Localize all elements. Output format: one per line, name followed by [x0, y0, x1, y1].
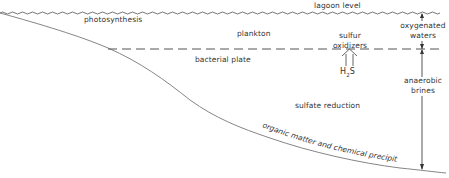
lagoon-level-label: lagoon level [314, 2, 361, 10]
lagoon-floor-profile [0, 13, 446, 173]
sulfate-reduction-label: sulfate reduction [295, 102, 360, 110]
sulfur-oxidizers-label: sulfur oxidizers [330, 32, 370, 49]
oxygenated-waters-line2: waters [398, 32, 448, 40]
oxygenated-waters-line1: oxygenated [398, 22, 448, 30]
plankton-label: plankton [237, 30, 271, 38]
oxygenated-waters-label: oxygenated waters [398, 22, 448, 39]
anaerobic-brines-label: anaerobic brines [398, 77, 448, 94]
photosynthesis-label: photosynthesis [84, 16, 142, 24]
anaerobic-brines-line1: anaerobic [398, 77, 448, 85]
h2s-upward-arrow-icon [342, 49, 357, 66]
diagram-canvas: organic matter and chemical precipitates [0, 0, 449, 178]
lagoon-surface-wavy-line [0, 12, 440, 14]
anaerobic-brines-range-arrow-icon [420, 49, 424, 170]
bottom-deposits-label: organic matter and chemical precipitates [0, 0, 399, 164]
sulfur-oxidizers-line2: oxidizers [330, 42, 370, 50]
sulfur-oxidizers-line1: sulfur [330, 32, 370, 40]
h2s-label: H2S [340, 68, 355, 78]
bacterial-plate-label: bacterial plate [195, 56, 251, 64]
anaerobic-brines-line2: brines [398, 87, 448, 95]
lagoon-stratification-diagram: organic matter and chemical precipitates… [0, 0, 449, 178]
h2s-s: S [350, 67, 355, 76]
